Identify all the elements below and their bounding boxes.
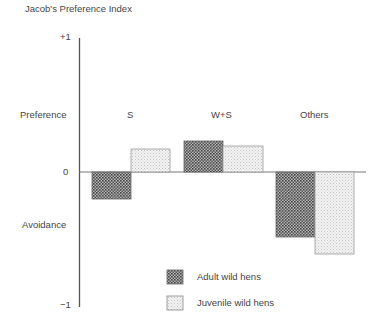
chart-canvas [0, 0, 379, 324]
bar-ws-adult [184, 141, 223, 172]
bar-ws-juvenile [223, 146, 263, 172]
bar-s-adult [92, 172, 131, 199]
legend-label-adult: Adult wild hens [197, 271, 261, 282]
bar-s-juvenile [131, 149, 170, 172]
legend-swatch-juvenile [167, 296, 183, 310]
legend-swatch-adult [167, 270, 183, 284]
legend-label-juvenile: Juvenile wild hens [197, 297, 274, 308]
bar-others-juvenile [315, 172, 354, 254]
bar-others-adult [276, 172, 315, 237]
